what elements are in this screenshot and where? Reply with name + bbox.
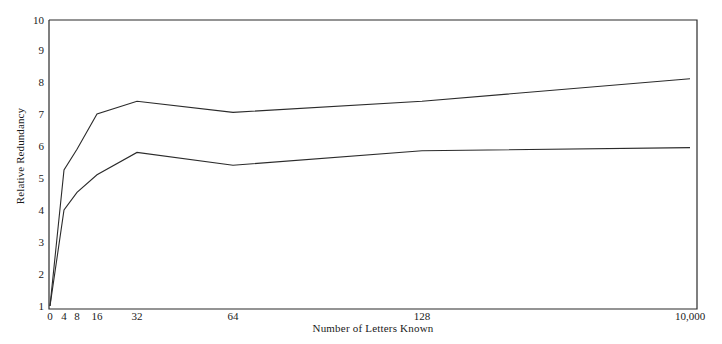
chart-figure: Relative Redundancy 1 2 3 4 5 6 7 8 9 10… [0,0,722,344]
plot-area [0,0,722,344]
axis-frame [49,20,697,309]
series-line-lower [50,148,690,306]
x-axis-title: Number of Letters Known [49,322,697,334]
series-line-upper [50,79,690,306]
